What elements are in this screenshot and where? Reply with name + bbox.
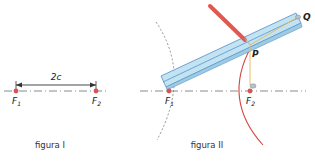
pin-q-icon bbox=[295, 15, 300, 19]
focus-2-label: F2 bbox=[246, 96, 255, 107]
focus-2-label: F2 bbox=[92, 96, 101, 107]
focus-2-point bbox=[248, 89, 253, 94]
focus-1-point bbox=[14, 89, 19, 94]
arrowhead-right-icon bbox=[90, 83, 96, 88]
pin-f2-icon bbox=[250, 84, 256, 88]
distance-label: 2c bbox=[51, 72, 62, 82]
figure-2-caption: figura II bbox=[191, 140, 224, 150]
figure-1-caption: figura I bbox=[35, 140, 65, 150]
arrowhead-left-icon bbox=[16, 83, 22, 88]
focus-1-label: F1 bbox=[165, 96, 174, 107]
figure-2: F1 F2 P Q figura II bbox=[140, 6, 311, 150]
pencil-icon bbox=[210, 6, 250, 45]
focus-1-point bbox=[167, 89, 172, 94]
point-q-label: Q bbox=[303, 12, 311, 22]
diagram-canvas: 2c F1 F2 figura I F1 F2 P bbox=[0, 0, 315, 165]
focus-1-label: F1 bbox=[12, 96, 21, 107]
point-p-label: P bbox=[252, 49, 259, 59]
focus-2-point bbox=[94, 89, 99, 94]
figure-1: 2c F1 F2 figura I bbox=[4, 72, 109, 150]
